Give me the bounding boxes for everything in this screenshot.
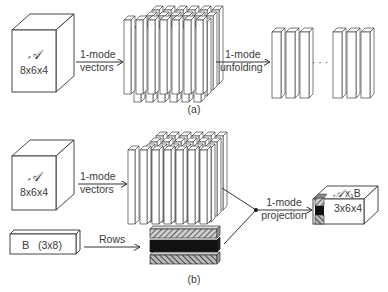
result-op: x₁B (345, 187, 361, 199)
arrow-label-line2: vectors (80, 183, 114, 195)
tensor-unfolding-diagram: 𝒜 8x6x4 1-mode vectors 1-mode unfolding … (0, 0, 388, 292)
arrow-label-line2: vectors (80, 61, 114, 73)
ellipsis: · · · (312, 56, 328, 68)
result-dims: 3x6x4 (334, 202, 362, 214)
panel-b: 𝒜 8x6x4 1-mode vectors B (3x8) Rows (10, 132, 378, 285)
tensor-dims: 8x6x4 (20, 186, 48, 198)
arrow-label-line1: 1-mode (225, 48, 261, 60)
matrix-name: B (22, 239, 29, 251)
arrow-label-line2: unfolding (220, 61, 263, 73)
connector-line (224, 210, 256, 244)
projection-line2: projection (261, 209, 307, 221)
tensor-dims: 8x6x4 (20, 64, 48, 76)
tensor-cube-a (12, 14, 74, 92)
caption-a: (a) (188, 103, 201, 115)
caption-b: (b) (188, 273, 201, 285)
fiber-block-b (128, 132, 227, 224)
matrix-dims: (3x8) (38, 239, 62, 251)
rows-stack (150, 226, 220, 264)
fiber-block-a (124, 6, 223, 102)
projection-line1: 1-mode (266, 196, 302, 208)
tensor-cube-b (12, 140, 74, 210)
arrow-label-line1: 1-mode (80, 170, 116, 182)
arrow-label-line1: 1-mode (80, 48, 116, 60)
panel-a: 𝒜 8x6x4 1-mode vectors 1-mode unfolding … (12, 6, 374, 115)
rows-label: Rows (99, 233, 125, 245)
